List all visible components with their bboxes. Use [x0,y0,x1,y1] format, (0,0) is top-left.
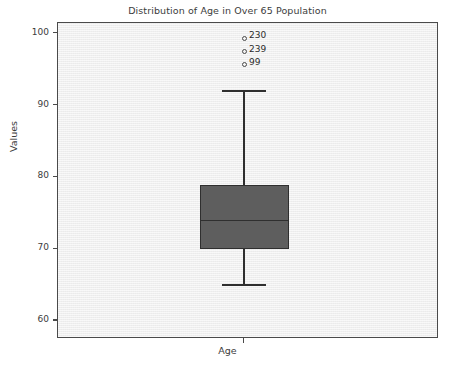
y-axis-tick-label: 90 [0,99,49,109]
outlier-label: 230 [249,30,266,40]
y-axis-label: Values [8,121,19,152]
outlier-label: 99 [249,57,260,67]
whisker-lower-cap [222,284,266,286]
whisker-upper-cap [222,90,266,92]
outlier-label: 239 [249,44,266,54]
y-axis-tick-label: 100 [0,27,49,37]
whisker-upper-stem [243,91,245,184]
boxplot-figure: Distribution of Age in Over 65 Populatio… [0,0,455,369]
box-iqr [200,185,289,250]
outlier-marker [242,49,247,54]
plot-inner: 23023999 [58,23,437,337]
outlier-marker [242,36,247,41]
whisker-lower-stem [243,249,245,285]
median-line [200,220,289,222]
page-title: Distribution of Age in Over 65 Populatio… [0,5,455,16]
plot-area: 23023999 [57,22,438,338]
x-axis-label: Age [0,345,455,356]
x-axis-tick-mark [243,338,244,343]
y-axis-tick-label: 70 [0,242,49,252]
y-axis-tick-label: 60 [0,314,49,324]
y-axis-tick-label: 80 [0,170,49,180]
outlier-marker [242,62,247,67]
